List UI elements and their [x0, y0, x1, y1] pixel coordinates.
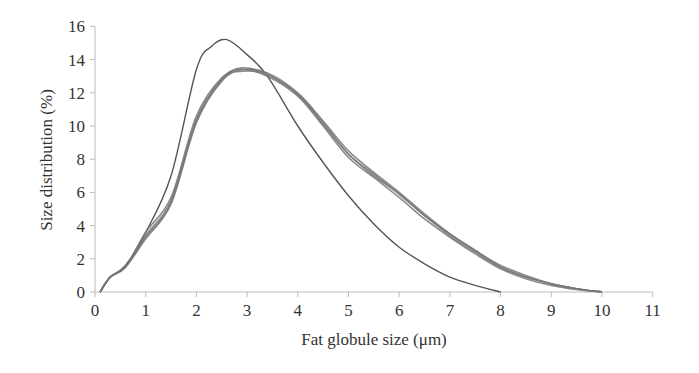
y-tick-label: 12: [68, 84, 85, 103]
fat-globule-chart: 024681012141601234567891011 Size distrib…: [0, 0, 699, 373]
x-tick-label: 6: [395, 301, 404, 320]
x-tick-label: 2: [192, 301, 201, 320]
y-tick-label: 2: [77, 250, 86, 269]
x-tick-label: 3: [243, 301, 252, 320]
y-tick-label: 14: [68, 51, 86, 70]
x-tick-label: 4: [294, 301, 303, 320]
y-tick-label: 6: [77, 183, 86, 202]
series-line-sample-narrow: [100, 39, 501, 292]
y-tick-label: 16: [68, 17, 85, 36]
x-axis-title: Fat globule size (μm): [301, 330, 447, 349]
x-tick-label: 1: [141, 301, 150, 320]
x-tick-label: 9: [547, 301, 556, 320]
y-tick-label: 8: [77, 150, 86, 169]
x-tick-label: 11: [645, 301, 661, 320]
series-line-sample-c: [100, 70, 602, 292]
y-tick-label: 4: [77, 217, 86, 236]
series-line-sample-d: [100, 71, 602, 292]
y-tick-label: 0: [77, 283, 86, 302]
series-line-sample-b: [100, 69, 602, 292]
x-tick-label: 7: [446, 301, 455, 320]
series-line-sample-a: [100, 68, 602, 292]
x-tick-label: 0: [91, 301, 100, 320]
x-tick-label: 5: [344, 301, 353, 320]
x-tick-label: 8: [496, 301, 505, 320]
y-tick-label: 10: [68, 117, 85, 136]
y-axis-title: Size distribution (%): [37, 89, 56, 231]
chart-series: [100, 39, 602, 292]
x-tick-label: 10: [594, 301, 611, 320]
